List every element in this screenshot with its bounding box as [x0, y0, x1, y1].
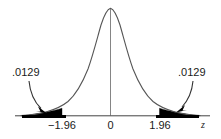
right-annotation-arrowhead	[176, 105, 187, 113]
left-annotation-leader-line	[29, 81, 41, 109]
x-axis-name-label: z	[200, 119, 205, 130]
left-annotation-arrowhead	[36, 107, 47, 114]
normal-distribution-figure: .0129 .0129 −1.96 0 1.96 z	[0, 0, 221, 139]
x-tick-label-zero: 0	[107, 119, 113, 131]
right-area-label: .0129	[178, 66, 206, 78]
x-tick-label-negative-1-96: −1.96	[48, 119, 76, 131]
left-area-label: .0129	[12, 66, 40, 78]
x-tick-label-1-96: 1.96	[149, 119, 170, 131]
right-annotation-leader-line	[182, 81, 193, 107]
